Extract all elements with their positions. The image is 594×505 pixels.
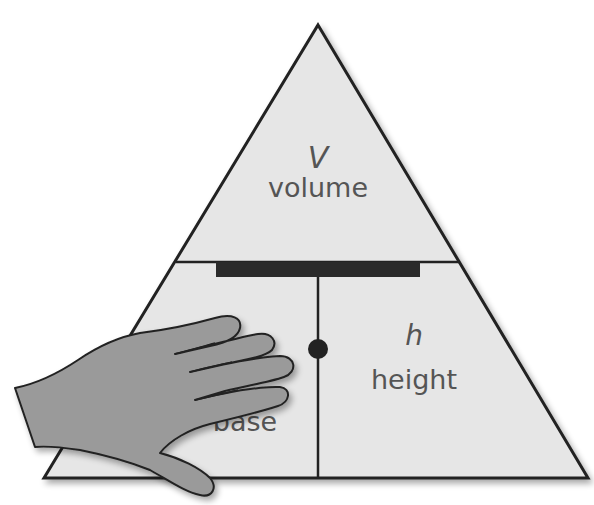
height-label: height [371, 364, 457, 395]
division-bar [216, 262, 420, 277]
multiply-dot [308, 339, 328, 359]
height-symbol: h [405, 319, 423, 352]
formula-triangle-diagram: V volume h height base [0, 0, 594, 505]
volume-symbol: V [308, 140, 331, 175]
volume-label: volume [268, 172, 368, 203]
